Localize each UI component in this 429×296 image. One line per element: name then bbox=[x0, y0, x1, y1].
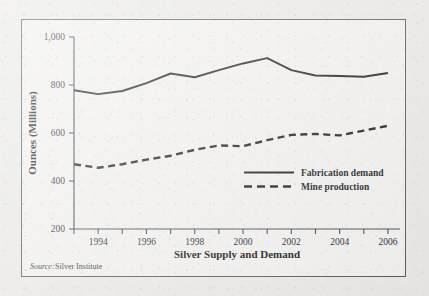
x-axis-ticks bbox=[74, 229, 388, 234]
x-tick-label-2004: 2004 bbox=[330, 237, 349, 247]
x-axis-tick-labels: 1994199619982000200220042006 bbox=[89, 237, 398, 247]
y-tick-label-200: 200 bbox=[51, 224, 66, 234]
chart-series-group bbox=[74, 58, 388, 168]
y-tick-label-600: 600 bbox=[51, 128, 66, 138]
x-tick-label-1994: 1994 bbox=[89, 237, 108, 247]
x-tick-label-2006: 2006 bbox=[378, 237, 397, 247]
legend-label-fabrication-demand: Fabrication demand bbox=[301, 168, 384, 178]
x-axis-title: Silver Supply and Demand bbox=[174, 248, 300, 260]
x-tick-label-2002: 2002 bbox=[282, 237, 301, 247]
y-axis-ticks bbox=[69, 37, 74, 229]
y-tick-label-1000: 1,000 bbox=[44, 32, 66, 42]
y-tick-label-800: 800 bbox=[51, 80, 66, 90]
chart-figure-frame: 2004006008001,000 1994199619982000200220… bbox=[21, 19, 406, 277]
x-tick-label-1996: 1996 bbox=[137, 237, 156, 247]
legend-label-mine-production: Mine production bbox=[301, 182, 370, 192]
y-tick-label-400: 400 bbox=[51, 176, 66, 186]
x-tick-label-1998: 1998 bbox=[185, 237, 204, 247]
source-name: Silver Institute bbox=[55, 262, 103, 271]
series-line-mine-production bbox=[74, 126, 388, 168]
chart-legend: Fabrication demand Mine production bbox=[244, 168, 384, 192]
series-line-fabrication-demand bbox=[74, 58, 388, 94]
silver-supply-demand-line-chart: 2004006008001,000 1994199619982000200220… bbox=[22, 20, 407, 278]
source-prefix: Source: bbox=[30, 262, 55, 271]
x-tick-label-2000: 2000 bbox=[234, 237, 253, 247]
y-axis-tick-labels: 2004006008001,000 bbox=[44, 32, 66, 234]
y-axis-title: Ounces (Millions) bbox=[26, 91, 39, 175]
